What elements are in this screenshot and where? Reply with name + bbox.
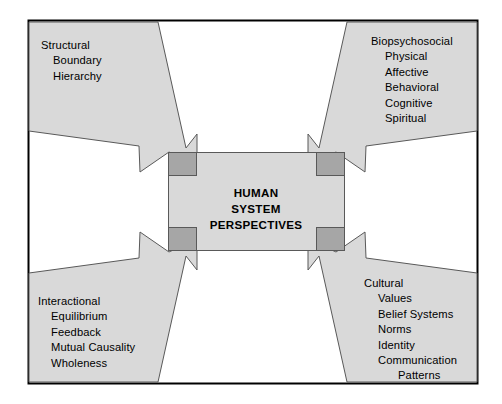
- quadrant-item-belief-systems: Belief Systems: [364, 307, 457, 322]
- quadrant-item-wholeness: Wholeness: [38, 356, 135, 371]
- quadrant-heading-biopsychosocial: Biopsychosocial: [371, 34, 453, 49]
- overlap-square-top-left: [169, 153, 197, 176]
- quadrant-heading-structural: Structural: [41, 38, 102, 53]
- center-title-line-3: PERSPECTIVES: [168, 217, 344, 233]
- center-title-line-2: SYSTEM: [168, 201, 344, 217]
- quadrant-item-boundary: Boundary: [41, 53, 102, 68]
- quadrant-item-physical: Physical: [371, 49, 453, 64]
- quadrant-item-values: Values: [364, 291, 457, 306]
- quadrant-item-equilibrium: Equilibrium: [38, 309, 135, 324]
- quadrant-label-bottom-right: Cultural Values Belief Systems Norms Ide…: [364, 276, 457, 384]
- quadrant-heading-cultural: Cultural: [364, 276, 457, 291]
- quadrant-item-norms: Norms: [364, 322, 457, 337]
- quadrant-item-affective: Affective: [371, 65, 453, 80]
- quadrant-label-top-right: Biopsychosocial Physical Affective Behav…: [371, 34, 453, 126]
- quadrant-item-feedback: Feedback: [38, 325, 135, 340]
- quadrant-item-cognitive: Cognitive: [371, 96, 453, 111]
- quadrant-item-behavioral: Behavioral: [371, 80, 453, 95]
- quadrant-item-identity: Identity: [364, 338, 457, 353]
- quadrant-item-communication: Communication: [364, 353, 457, 368]
- quadrant-subitem-patterns: Patterns: [364, 368, 457, 383]
- quadrant-item-hierarchy: Hierarchy: [41, 69, 102, 84]
- center-title-line-1: HUMAN: [168, 185, 344, 201]
- quadrant-item-spiritual: Spiritual: [371, 111, 453, 126]
- quadrant-label-top-left: Structural Boundary Hierarchy: [41, 38, 102, 84]
- quadrant-item-mutual-causality: Mutual Causality: [38, 340, 135, 355]
- quadrant-label-bottom-left: Interactional Equilibrium Feedback Mutua…: [38, 294, 135, 371]
- quadrant-heading-interactional: Interactional: [38, 294, 135, 309]
- human-system-perspectives-diagram: Structural Boundary Hierarchy Biopsychos…: [0, 0, 502, 404]
- overlap-square-top-right: [317, 153, 345, 176]
- center-title: HUMAN SYSTEM PERSPECTIVES: [168, 185, 344, 233]
